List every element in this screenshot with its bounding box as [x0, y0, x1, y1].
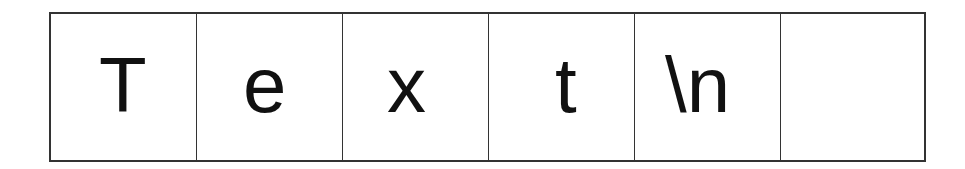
cell-char: T	[99, 46, 147, 124]
character-array: T e x t \n	[49, 12, 926, 162]
cell-char: t	[555, 46, 577, 124]
array-cell-2: x	[343, 14, 489, 160]
cell-char: \n	[665, 46, 730, 124]
cell-char: e	[243, 46, 286, 124]
array-cell-4: \n	[635, 14, 781, 160]
cell-char: x	[387, 46, 426, 124]
array-cell-1: e	[197, 14, 343, 160]
array-cell-5	[781, 14, 924, 160]
array-cell-3: t	[489, 14, 635, 160]
array-cell-0: T	[51, 14, 197, 160]
